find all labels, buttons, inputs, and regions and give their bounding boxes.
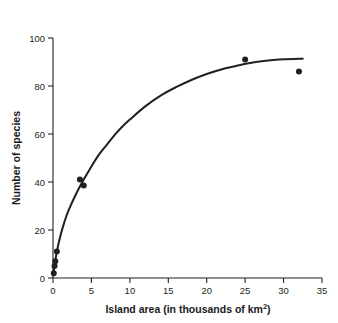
top-crop-artifact <box>30 0 210 8</box>
x-tick-label-5: 5 <box>89 285 94 296</box>
chart-svg: 0 20 40 60 80 100 0 5 10 15 20 25 30 35 <box>0 0 338 323</box>
x-tick-label-30: 30 <box>278 285 289 296</box>
species-area-chart: 0 20 40 60 80 100 0 5 10 15 20 25 30 35 <box>0 0 338 323</box>
x-axis-title-suffix: ) <box>267 303 271 315</box>
x-tick-label-20: 20 <box>201 285 212 296</box>
x-tick-label-25: 25 <box>240 285 251 296</box>
data-point <box>51 270 57 276</box>
x-tick-label-35: 35 <box>317 285 328 296</box>
y-tick-label-60: 60 <box>34 129 45 140</box>
y-tick-label-20: 20 <box>34 225 45 236</box>
y-tick-label-40: 40 <box>34 177 45 188</box>
data-point <box>52 258 58 264</box>
x-axis-title: Island area (in thousands of km2) <box>105 302 270 315</box>
x-tick-label-10: 10 <box>125 285 136 296</box>
y-tick-label-80: 80 <box>34 81 45 92</box>
y-tick-label-100: 100 <box>29 33 45 44</box>
y-tick-label-0: 0 <box>40 273 45 284</box>
chart-background <box>0 0 338 323</box>
x-tick-label-15: 15 <box>163 285 174 296</box>
data-point <box>242 57 248 63</box>
x-axis-title-main: Island area (in thousands of km <box>105 303 263 315</box>
data-point <box>54 249 60 255</box>
data-point <box>81 183 87 189</box>
data-point <box>296 69 302 75</box>
y-axis-title: Number of species <box>10 111 22 205</box>
data-point <box>77 177 83 183</box>
x-tick-label-0: 0 <box>50 285 55 296</box>
